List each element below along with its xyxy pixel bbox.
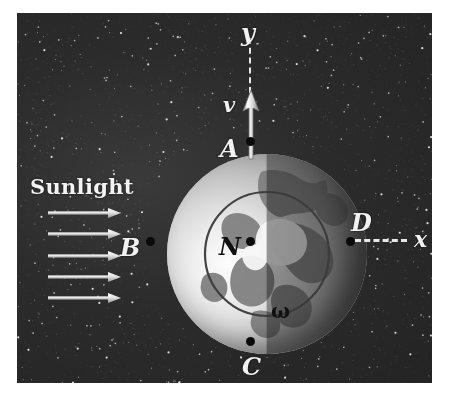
earth-globe: [167, 154, 367, 354]
velocity-vector-arrow: [238, 89, 264, 161]
rotation-latitude-circle: [167, 154, 367, 354]
point-b-dot[interactable]: [146, 237, 155, 246]
point-c-label: C: [242, 355, 261, 379]
point-d-dot[interactable]: [346, 237, 355, 246]
point-c-dot[interactable]: [246, 337, 255, 346]
point-d-label: D: [351, 211, 372, 235]
y-axis-label: y: [241, 21, 255, 45]
sunlight-ray-head-4: [108, 272, 121, 282]
sunlight-ray-head-5: [108, 293, 121, 303]
sunlight-rays: [48, 208, 121, 303]
point-a-label: A: [220, 137, 239, 161]
physics-diagram-figure: y v A B C D x N ω Sunlight: [0, 0, 449, 407]
sunlight-ray-shaft-1: [48, 211, 110, 214]
sunlight-ray-shaft-3: [48, 254, 110, 257]
sunlight-ray-shaft-5: [48, 296, 110, 299]
x-axis-dashed-line: [355, 239, 407, 242]
point-n-dot[interactable]: [246, 237, 255, 246]
point-n-label: N: [219, 235, 241, 259]
sunlight-ray-head-1: [108, 208, 121, 218]
velocity-label: v: [223, 94, 235, 115]
x-axis-label: x: [414, 228, 427, 250]
omega-label: ω: [271, 301, 290, 321]
point-a-dot[interactable]: [246, 137, 255, 146]
sunlight-label: Sunlight: [30, 174, 134, 199]
sunlight-ray-shaft-4: [48, 275, 110, 278]
sunlight-ray-shaft-2: [48, 232, 110, 235]
point-b-label: B: [120, 236, 140, 260]
